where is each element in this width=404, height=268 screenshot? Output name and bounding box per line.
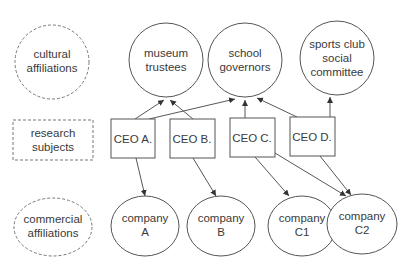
node-label: CEO D. bbox=[292, 131, 332, 143]
category-commercial-affiliations: commercial affiliations bbox=[14, 198, 92, 256]
node-label: CEO C. bbox=[232, 132, 272, 144]
node-label: CEO A. bbox=[114, 133, 152, 145]
node-label: CEO B. bbox=[173, 133, 212, 145]
category-commercial-line2: affiliations bbox=[28, 227, 79, 239]
category-commercial-line1: commercial bbox=[24, 213, 83, 225]
node-label: company bbox=[122, 212, 169, 224]
node-label: C1 bbox=[295, 226, 310, 238]
node-label: sports club bbox=[309, 38, 365, 50]
node-museum-trustees[interactable]: museum trustees bbox=[129, 23, 203, 97]
category-cultural-line1: cultural bbox=[33, 48, 70, 60]
category-research-line2: subjects bbox=[32, 141, 74, 153]
affiliation-diagram: cultural affiliations research subjects … bbox=[0, 0, 404, 268]
node-ceo-b[interactable]: CEO B. bbox=[170, 119, 215, 158]
node-label: B bbox=[217, 226, 225, 238]
category-cultural-affiliations: cultural affiliations bbox=[15, 25, 89, 99]
edge-ceo-a-school bbox=[149, 99, 235, 119]
edge-ceo-d-school bbox=[257, 98, 297, 117]
node-company-c1[interactable]: company C1 bbox=[268, 196, 336, 256]
category-research-subjects: research subjects bbox=[13, 120, 93, 160]
node-company-c2[interactable]: company C2 bbox=[327, 194, 397, 254]
node-ceo-d[interactable]: CEO D. bbox=[290, 117, 335, 156]
node-label: company bbox=[279, 212, 326, 224]
node-company-a[interactable]: company A bbox=[111, 196, 179, 256]
node-label: C2 bbox=[355, 224, 370, 236]
node-label: company bbox=[339, 210, 386, 222]
node-company-b[interactable]: company B bbox=[187, 196, 255, 256]
category-cultural-line2: affiliations bbox=[27, 62, 78, 74]
node-label: committee bbox=[310, 66, 363, 78]
edge-ceo-c-company-c1 bbox=[255, 157, 289, 196]
category-research-line1: research bbox=[31, 127, 76, 139]
node-label: A bbox=[141, 226, 149, 238]
node-label: museum bbox=[144, 47, 188, 59]
node-school-governors[interactable]: school governors bbox=[208, 23, 282, 97]
node-sports-club-social-committee[interactable]: sports club social committee bbox=[300, 21, 374, 95]
node-label: company bbox=[198, 212, 245, 224]
node-label: social bbox=[322, 52, 351, 64]
node-label: school bbox=[228, 47, 261, 59]
node-label: trustees bbox=[146, 61, 187, 73]
edge-ceo-b-company-b bbox=[193, 158, 216, 196]
node-label: governors bbox=[219, 61, 270, 73]
node-ceo-c[interactable]: CEO C. bbox=[230, 118, 275, 157]
edge-ceo-c-company-c2 bbox=[275, 153, 346, 196]
node-ceo-a[interactable]: CEO A. bbox=[111, 119, 155, 158]
edge-ceo-a-company-a bbox=[136, 158, 145, 196]
